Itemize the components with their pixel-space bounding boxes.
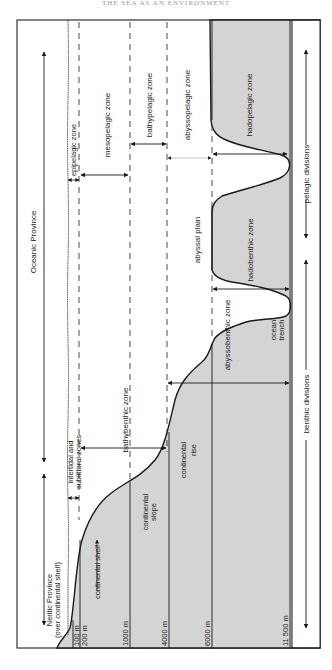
intertidal-label-line2: sublittoral zones [74, 435, 83, 489]
abyssopelagic-zone-label: abyssopelagic zone [183, 69, 192, 140]
benthic-divisions-label: benthic divisions [302, 375, 311, 434]
depth-label-11500m: 11 500 m [281, 615, 290, 646]
depth-label-6000m: 6000 m [203, 621, 212, 646]
bathybenthic-zone-label: bathybenthic zone [121, 387, 130, 452]
epipelagic-zone-label: epipelagic zone [69, 124, 78, 176]
depth-label-4000m: 4000 m [160, 621, 169, 646]
mesopelagic-zone-label: mesopelagic zone [103, 92, 112, 157]
ocean-trench-label-line2: trench [277, 320, 286, 341]
bathypelagic-zone-label: bathypelagic zone [145, 72, 154, 137]
neritic-province-sublabel: (over continental shelf) [53, 562, 62, 638]
abyssobenthic-zone-label: abyssobenthic zone [223, 299, 232, 370]
oceanic-province-label: Oceanic Province [29, 210, 38, 273]
continental-slope-label-line2: slope [149, 503, 158, 521]
continental-rise-label-line2: rise [189, 444, 198, 456]
depth-label-200m: 200 m [80, 625, 89, 646]
pelagic-divisions-label: pelagic divisions [302, 145, 311, 203]
depth-label-1000m: 1000 m [121, 621, 130, 646]
hadopelagic-zone-label: hadopelagic zone [245, 73, 254, 136]
ocean-zonation-diagram: Oceanic Province Neritic Province (over … [0, 0, 332, 670]
continental-rise-label-line1: continental [179, 442, 188, 479]
continental-shelf-label: continental shelf [93, 544, 102, 599]
abyssal-plain-label: abyssal plain [193, 217, 202, 263]
hadobenthic-zone-label: hadobenthic zone [246, 218, 255, 282]
